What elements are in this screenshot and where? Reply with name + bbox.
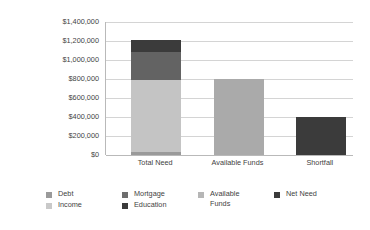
y-axis-tick-label: $400,000 [36, 113, 99, 121]
y-axis-tick-label: $0 [36, 151, 99, 159]
legend-swatch-icon [122, 203, 128, 209]
x-axis-tick-label: Shortfall [279, 158, 361, 168]
axis-baseline [106, 155, 353, 156]
y-axis-tick-label: $800,000 [36, 75, 99, 83]
legend-swatch-icon [274, 192, 280, 198]
bar-group[interactable] [296, 117, 346, 155]
bar-segment[interactable] [214, 79, 264, 155]
legend-label: Available Funds [210, 189, 256, 208]
plot-area [105, 22, 352, 155]
bar-chart: $ of Life Insurance $0$200,000$400,000$6… [0, 0, 370, 230]
bar-group[interactable] [214, 79, 264, 155]
gridline [106, 22, 353, 23]
bar-segment[interactable] [131, 40, 181, 52]
y-axis-tick-label: $200,000 [36, 132, 99, 140]
bar-segment[interactable] [131, 52, 181, 80]
bar-segment[interactable] [131, 80, 181, 152]
chart-legend: DebtIncomeMortgageEducationAvailable Fun… [46, 190, 336, 216]
legend-label: Net Need [286, 189, 317, 199]
y-axis-tick-labels: $0$200,000$400,000$600,000$800,000$1,000… [36, 16, 102, 161]
legend-label: Education [134, 200, 166, 210]
legend-label: Debt [58, 189, 73, 199]
bar-segment[interactable] [296, 117, 346, 155]
y-axis-tick-label: $1,200,000 [36, 37, 99, 45]
legend-swatch-icon [46, 192, 52, 198]
y-axis-tick-label: $600,000 [36, 94, 99, 102]
legend-label: Income [58, 200, 82, 210]
legend-swatch-icon [46, 203, 52, 209]
y-axis-tick-label: $1,400,000 [36, 18, 99, 26]
bar-group[interactable] [131, 40, 181, 155]
legend-swatch-icon [198, 192, 204, 198]
x-axis-tick-label: Available Funds [196, 158, 278, 168]
legend-swatch-icon [122, 192, 128, 198]
bar-segment[interactable] [131, 152, 181, 155]
x-axis-tick-labels: Total NeedAvailable FundsShortfall [105, 158, 352, 180]
legend-label: Mortgage [134, 189, 165, 199]
y-axis-tick-label: $1,000,000 [36, 56, 99, 64]
x-axis-tick-label: Total Need [114, 158, 196, 168]
